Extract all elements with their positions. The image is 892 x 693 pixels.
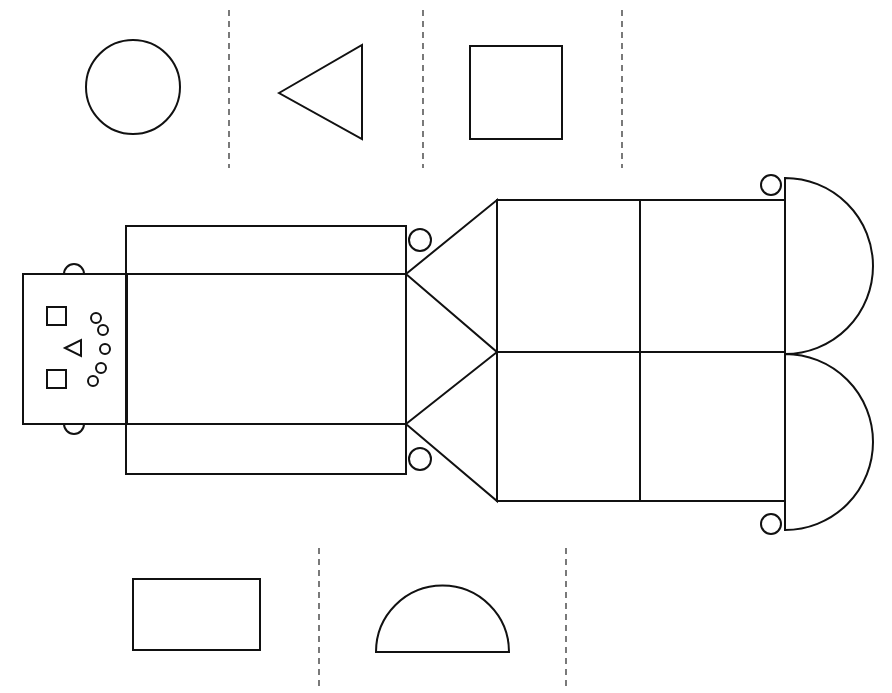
robot-legs: [497, 200, 785, 501]
robot-body: [126, 226, 406, 474]
foot-semicircle: [785, 178, 873, 354]
semicircle-shape: [376, 586, 509, 653]
robot-arms: [406, 200, 497, 501]
small-circle: [761, 175, 781, 195]
hand-circle: [409, 229, 431, 251]
ear-top: [64, 264, 84, 274]
square-shape: [470, 46, 562, 139]
mouth-circle: [96, 363, 106, 373]
circle-shape: [86, 40, 180, 134]
mouth-circle: [98, 325, 108, 335]
robot-shapes-diagram: [0, 0, 892, 693]
rectangle-shape: [133, 579, 260, 650]
nose-triangle: [65, 340, 81, 356]
ear-bottom: [64, 424, 84, 434]
foot-semicircle: [785, 354, 873, 530]
hand-circle: [409, 448, 431, 470]
eye-square: [47, 307, 66, 325]
eye-square: [47, 370, 66, 388]
mouth-circle: [88, 376, 98, 386]
robot-head: [23, 264, 127, 434]
mouth-circle: [91, 313, 101, 323]
mouth-circle: [100, 344, 110, 354]
triangle-shape: [279, 45, 362, 139]
small-circle: [761, 514, 781, 534]
